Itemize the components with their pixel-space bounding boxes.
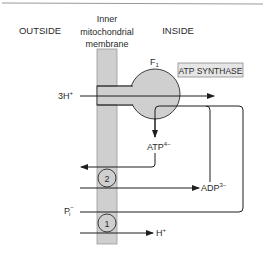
membrane-label-line3: membrane [85,39,128,49]
proton-in-label: 3H+ [58,90,74,101]
membrane-label-line1: Inner [97,14,118,24]
outside-label: OUTSIDE [19,25,61,36]
atp-export-arrow [81,153,155,167]
transporter-2-number: 2 [104,174,109,184]
atp-synthase-label: ATP SYNTHASE [179,66,243,76]
membrane-label-line2: mitochondrial [80,27,134,37]
proton-out-label: H+ [156,227,167,238]
atp-synthase-diagram: OUTSIDE Inner mitochondrial membrane INS… [0,0,265,258]
f1-label: F1 [150,57,160,68]
top-rule [2,3,263,4]
inside-label: INSIDE [162,25,194,36]
phosphate-label: Pi− [64,204,74,217]
adp-label: ADP3− [201,182,227,193]
transporter-1-number: 1 [104,219,109,229]
atp-label: ATP4− [147,141,171,152]
